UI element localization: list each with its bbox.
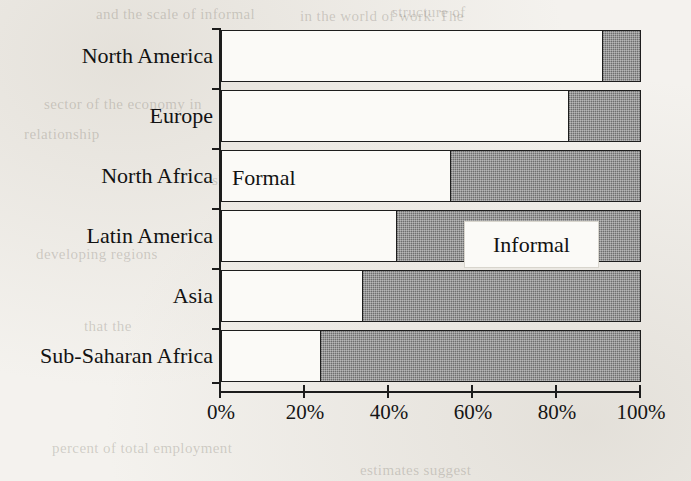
bar-segment-formal bbox=[221, 330, 322, 382]
bar-segment-formal bbox=[221, 90, 570, 142]
x-axis-tick bbox=[303, 385, 305, 398]
x-axis-tick bbox=[555, 385, 557, 398]
x-axis-tick bbox=[387, 385, 389, 398]
bar-segment-formal bbox=[221, 270, 364, 322]
y-axis-tick bbox=[212, 148, 221, 150]
category-label-latin-america: Latin America bbox=[0, 225, 213, 247]
x-axis-tick-label: 100% bbox=[606, 400, 676, 425]
y-axis-tick bbox=[212, 382, 221, 384]
x-axis-tick bbox=[219, 385, 221, 398]
bar-segment-informal bbox=[320, 330, 641, 382]
bar-segment-informal bbox=[602, 30, 641, 82]
y-axis-tick bbox=[212, 328, 221, 330]
bar-segment-formal bbox=[221, 210, 397, 262]
x-axis-tick-label: 60% bbox=[438, 400, 508, 425]
formal-series-annotation: Formal bbox=[232, 165, 296, 191]
bar-row bbox=[221, 90, 641, 142]
bar-segment-formal bbox=[221, 30, 603, 82]
x-axis-line bbox=[219, 391, 641, 393]
category-label-europe: Europe bbox=[0, 105, 213, 127]
x-axis-tick-label: 0% bbox=[186, 400, 256, 425]
x-axis-tick bbox=[471, 385, 473, 398]
y-axis-tick bbox=[212, 268, 221, 270]
category-label-asia: Asia bbox=[0, 285, 213, 307]
x-axis-tick-label: 80% bbox=[522, 400, 592, 425]
stacked-bar-chart: 0%20%40%60%80%100% North AmericaEuropeNo… bbox=[0, 0, 691, 481]
bar-row bbox=[221, 330, 641, 382]
informal-series-annotation: Informal bbox=[464, 221, 599, 268]
x-axis-tick-label: 20% bbox=[270, 400, 340, 425]
bar-row bbox=[221, 270, 641, 322]
y-axis-tick bbox=[212, 88, 221, 90]
x-axis-tick-label: 40% bbox=[354, 400, 424, 425]
y-axis-tick bbox=[212, 28, 221, 30]
category-label-sub-saharan-africa: Sub-Saharan Africa bbox=[0, 345, 213, 367]
bar-segment-informal bbox=[568, 90, 641, 142]
category-label-north-america: North America bbox=[0, 45, 213, 67]
x-axis-tick bbox=[639, 385, 641, 398]
bar-segment-informal bbox=[362, 270, 641, 322]
chart-page: and the scale of informalstructure ofin … bbox=[0, 0, 691, 481]
bar-segment-informal bbox=[450, 150, 641, 202]
y-axis-tick bbox=[212, 208, 221, 210]
category-label-north-africa: North Africa bbox=[0, 165, 213, 187]
bar-row bbox=[221, 30, 641, 82]
